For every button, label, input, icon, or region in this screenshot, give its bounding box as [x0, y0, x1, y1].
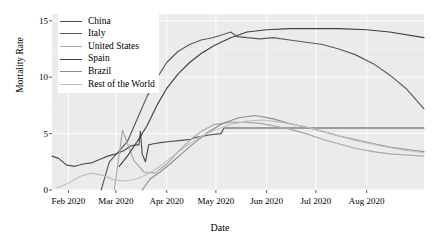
legend-swatch-icon [60, 59, 82, 60]
y-axis-ticks: 051015 [30, 0, 48, 241]
legend-label: Spain [88, 54, 110, 64]
legend-swatch-icon [60, 46, 82, 47]
legend-swatch-icon [60, 84, 82, 85]
xtick-label: Jun 2020 [250, 196, 283, 206]
legend-item-brazil[interactable]: Brazil [60, 65, 155, 78]
ytick-label: 15 [39, 16, 48, 26]
legend-swatch-icon [60, 71, 82, 72]
legend-label: Rest of the World [88, 80, 155, 90]
legend-label: Brazil [88, 67, 111, 77]
legend-item-rest-of-the-world[interactable]: Rest of the World [60, 78, 155, 91]
legend-item-spain[interactable]: Spain [60, 53, 155, 66]
xtick-label: Apr 2020 [150, 196, 184, 206]
legend-label: Italy [88, 29, 105, 39]
y-axis-label: Mortality Rate [15, 5, 25, 125]
xtick-label: May 2020 [198, 196, 235, 206]
legend-swatch-icon [60, 33, 82, 34]
ytick-label: 10 [39, 72, 48, 82]
mortality-rate-line-chart: 051015 Feb 2020Mar 2020Apr 2020May 2020J… [0, 0, 440, 241]
ytick-label: 5 [44, 129, 49, 139]
legend-item-united-states[interactable]: United States [60, 40, 155, 53]
ytick-label: 0 [44, 185, 49, 195]
legend: ChinaItalyUnited StatesSpainBrazilRest o… [58, 13, 159, 93]
xtick-label: Mar 2020 [98, 196, 133, 206]
xtick-label: Aug 2020 [349, 196, 385, 206]
legend-swatch-icon [60, 21, 82, 22]
legend-item-china[interactable]: China [60, 15, 155, 28]
x-axis-label: Date [0, 222, 440, 233]
xtick-label: Feb 2020 [52, 196, 86, 206]
xtick-label: Jul 2020 [300, 196, 331, 206]
legend-label: China [88, 17, 111, 27]
legend-label: United States [88, 42, 139, 52]
legend-item-italy[interactable]: Italy [60, 28, 155, 41]
